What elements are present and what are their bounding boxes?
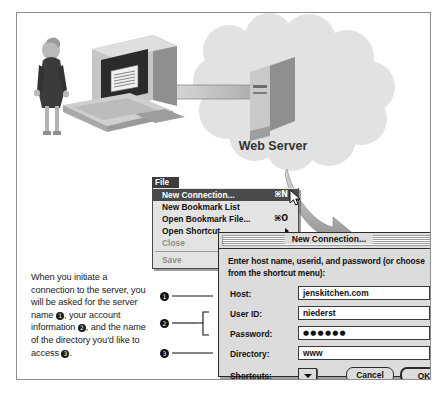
menu-item-open-bookmark-file[interactable]: Open Bookmark File... ⌘O (153, 213, 298, 225)
figure-frame: Web Server (16, 12, 431, 380)
menu-item-new-connection[interactable]: New Connection... ⌘N (153, 189, 298, 201)
dialog-body: Enter host name, userid, and password (o… (219, 249, 431, 380)
field-row-password: Password: ●●●●●● (228, 326, 430, 343)
field-row-host: Host: jenskitchen.com (228, 286, 430, 303)
menu-item-label: Open Shortcut (162, 226, 220, 236)
menu-title-file[interactable]: File (152, 177, 179, 188)
desktop-computer-icon (63, 35, 185, 132)
illustration: Web Server (17, 13, 430, 173)
host-label: Host: (230, 289, 251, 299)
directory-input[interactable]: www (298, 346, 430, 360)
person-icon (34, 37, 69, 135)
shortcuts-popup-menu[interactable] (298, 368, 317, 380)
menu-item-label: New Bookmark List (162, 202, 240, 212)
password-input[interactable]: ●●●●●● (298, 326, 430, 340)
new-connection-dialog[interactable]: New Connection... Enter host name, useri… (218, 232, 431, 377)
caption-callout-number: 3 (61, 350, 69, 358)
menu-item-label: Open Bookmark File... (162, 214, 250, 224)
dialog-title-bar[interactable]: New Connection... (219, 233, 431, 249)
caption-callout-number: 2 (78, 324, 86, 332)
field-row-userid: User ID: niederst (228, 306, 430, 323)
dialog-title-text: New Connection... (219, 234, 431, 244)
mouse-cursor-icon (289, 189, 301, 207)
chevron-down-icon (304, 374, 312, 378)
web-server-label: Web Server (239, 139, 308, 153)
userid-label: User ID: (230, 309, 262, 319)
figure-caption: When you initiate a connection to the se… (31, 271, 149, 359)
shortcuts-label: Shortcuts: (230, 371, 272, 380)
dialog-prompt: Enter host name, userid, and password (o… (228, 256, 430, 279)
callout-marker-1: 1 (160, 292, 169, 301)
callout-marker-3: 3 (160, 349, 169, 358)
shortcuts-row: Shortcuts: Cancel OK (228, 366, 430, 380)
cancel-button[interactable]: Cancel (346, 367, 394, 380)
menu-item-new-bookmark-list[interactable]: New Bookmark List (153, 201, 298, 213)
menu-item-shortcut: ⌘O (274, 213, 288, 225)
host-input[interactable]: jenskitchen.com (298, 286, 430, 300)
menu-item-label: Close (162, 238, 185, 248)
menu-item-label: New Connection... (162, 190, 235, 200)
callout-marker-2: 2 (160, 319, 169, 328)
menu-item-label: Save (162, 255, 182, 265)
menu-item-shortcut: ⌘N (274, 189, 288, 201)
directory-label: Directory: (230, 349, 270, 359)
password-label: Password: (230, 329, 272, 339)
field-row-directory: Directory: www (228, 346, 430, 363)
userid-input[interactable]: niederst (298, 306, 430, 320)
caption-callout-number: 1 (56, 312, 64, 320)
ok-button[interactable]: OK (400, 367, 431, 380)
